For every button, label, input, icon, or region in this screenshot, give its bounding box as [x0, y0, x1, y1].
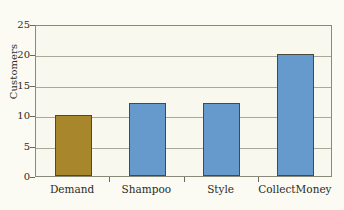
x-axis-tick-mark — [258, 177, 259, 182]
y-axis-tick-label: 25 — [8, 20, 30, 30]
y-axis-tick-mark — [30, 177, 35, 178]
caption-remnant — [4, 201, 254, 208]
x-axis-category-label: Style — [184, 183, 258, 195]
y-axis-tick-label: 20 — [8, 50, 30, 60]
bar — [55, 115, 92, 176]
bars-group — [36, 26, 331, 176]
y-axis-tick-label: 10 — [8, 111, 30, 121]
y-axis-tick-label: 0 — [8, 172, 30, 182]
x-axis-category-label: Shampoo — [109, 183, 183, 195]
x-axis-category-label: CollectMoney — [258, 183, 332, 195]
bar — [129, 103, 166, 176]
y-axis-tick-label: 15 — [8, 81, 30, 91]
y-axis-tick-labels: 0510152025 — [8, 0, 30, 210]
bar — [277, 54, 314, 176]
bar — [203, 103, 240, 176]
plot-area — [35, 25, 332, 177]
x-axis-category-label: Demand — [35, 183, 109, 195]
x-axis-tick-mark — [109, 177, 110, 182]
bar-chart-figure: Customers 0510152025 DemandShampooStyleC… — [0, 0, 344, 210]
y-axis-tick-label: 5 — [8, 142, 30, 152]
x-axis-tick-mark — [184, 177, 185, 182]
